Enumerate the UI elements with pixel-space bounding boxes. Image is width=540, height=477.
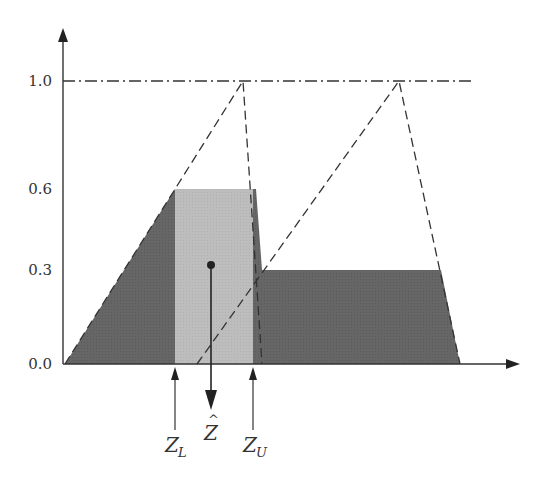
z-lower-arrow-icon	[171, 367, 179, 380]
z-upper-subscript: U	[256, 445, 268, 460]
y-tick-label: 1.0	[28, 72, 52, 90]
dark-region-right	[253, 189, 460, 364]
z-lower-subscript: L	[177, 445, 187, 460]
light-region-center	[175, 189, 253, 364]
z-upper-arrow-icon	[249, 367, 257, 380]
y-tick-label: 0.3	[28, 261, 52, 279]
y-axis-arrow-icon	[58, 28, 68, 42]
fuzzy-defuzzification-diagram: 0.0 0.3 0.6 1.0 Z L Z ^ Z U	[0, 0, 540, 477]
z-hat-accent: ^	[208, 412, 219, 427]
x-axis-arrow-icon	[506, 359, 520, 369]
y-tick-label: 0.0	[28, 355, 52, 373]
z-hat-arrow-icon	[205, 390, 217, 410]
y-tick-label: 0.6	[28, 180, 52, 198]
